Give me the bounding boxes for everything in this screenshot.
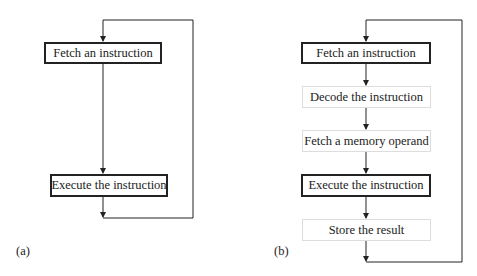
b-decode-instruction-box: Decode the instruction	[302, 86, 431, 108]
b-fetch-memory-operand-box: Fetch a memory operand	[302, 130, 431, 152]
diagram-b-label: (b)	[274, 244, 289, 259]
step-label: Execute the instruction	[51, 178, 166, 193]
b-fetch-instruction-box: Fetch an instruction	[301, 42, 431, 64]
step-label: Fetch an instruction	[53, 46, 152, 61]
diagram-a-label: (a)	[16, 244, 30, 259]
step-label: Execute the instruction	[308, 178, 423, 193]
b-execute-instruction-box: Execute the instruction	[301, 174, 431, 197]
b-store-result-box: Store the result	[302, 219, 431, 241]
a-execute-instruction-box: Execute the instruction	[50, 174, 168, 197]
a-fetch-instruction-box: Fetch an instruction	[44, 42, 162, 64]
step-label: Fetch a memory operand	[304, 134, 429, 149]
step-label: Store the result	[329, 223, 405, 238]
step-label: Fetch an instruction	[316, 46, 415, 61]
step-label: Decode the instruction	[310, 90, 423, 105]
